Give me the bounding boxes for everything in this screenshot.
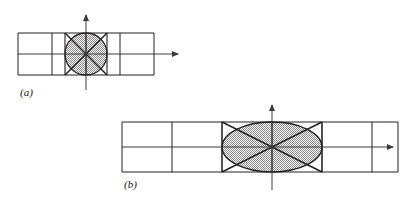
figure-background — [0, 0, 418, 207]
panel-b-label: (b) — [124, 178, 137, 191]
panel-a-label: (a) — [20, 86, 33, 99]
figure-root: (a) — [0, 0, 418, 207]
figure-diagram: (a) — [0, 0, 418, 207]
